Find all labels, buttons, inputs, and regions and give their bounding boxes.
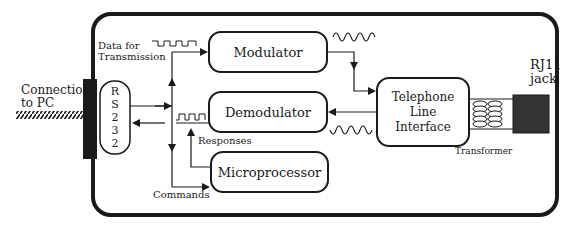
rj11-jack xyxy=(513,95,549,133)
transformer-label: Transformer xyxy=(455,147,512,156)
demodulator-label: Demodulator xyxy=(209,92,327,132)
commands-label: Commands xyxy=(153,190,210,201)
telephone-line-interface-label: Telephone Line Interface xyxy=(377,78,469,146)
modulator-label: Modulator xyxy=(209,32,327,72)
connection-to-pc-label: Connection to PC xyxy=(21,84,90,109)
rj11-jack-label: RJ11 jack xyxy=(530,58,562,85)
rs232-label: R S 2 3 2 xyxy=(100,81,130,154)
data-for-transmission-label: Data for Transmission xyxy=(98,41,166,62)
microprocessor-label: Microprocessor xyxy=(211,152,328,192)
responses-label: Responses xyxy=(198,136,252,147)
transformer-coils xyxy=(469,99,515,129)
pc-cable xyxy=(16,111,84,119)
